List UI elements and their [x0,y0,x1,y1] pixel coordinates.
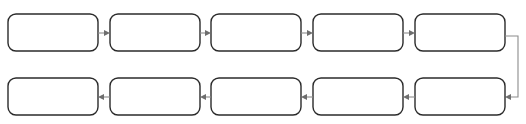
node-1-1-shape[interactable] [8,14,98,51]
flowchart-svg [0,0,526,124]
arrow-left-icon-2-4-to-2-3 [301,94,313,100]
arrow-left-icon-2-2-to-2-1 [98,94,110,100]
row-1-group [8,14,505,51]
arrow-right-icon-1-2-to-1-3 [200,30,211,36]
node-2-4[interactable] [313,78,403,115]
node-1-2[interactable] [110,14,200,51]
arrow-right-icon-1-4-to-1-5 [403,30,415,36]
arrow-right-icon-1-1-to-1-2 [98,30,110,36]
node-1-2-shape[interactable] [110,14,200,51]
node-2-4-shape[interactable] [313,78,403,115]
node-2-2[interactable] [110,78,200,115]
wrap-connector-row1-to-row2 [505,36,518,100]
node-1-4-shape[interactable] [313,14,403,51]
node-2-5-shape[interactable] [415,78,505,115]
node-1-3-shape[interactable] [211,14,301,51]
node-1-4[interactable] [313,14,403,51]
node-2-2-shape[interactable] [110,78,200,115]
row-2-group [8,78,505,115]
node-2-3-shape[interactable] [211,78,301,115]
node-1-3[interactable] [211,14,301,51]
node-1-5[interactable] [415,14,505,51]
flowchart-canvas [0,0,526,124]
node-2-1-shape[interactable] [8,78,98,115]
arrow-left-icon-2-3-to-2-2 [200,94,211,100]
arrow-left-icon-2-5-to-2-4 [403,94,415,100]
arrow-right-icon-1-3-to-1-4 [301,30,313,36]
node-2-3[interactable] [211,78,301,115]
node-1-1[interactable] [8,14,98,51]
node-2-1[interactable] [8,78,98,115]
node-1-5-shape[interactable] [415,14,505,51]
node-2-5[interactable] [415,78,505,115]
